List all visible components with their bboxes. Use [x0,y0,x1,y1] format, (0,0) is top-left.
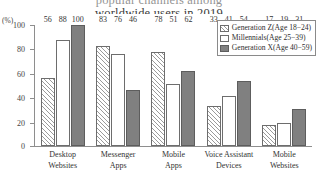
y-tick-100: 100 [30,25,34,26]
hatched-swatch-icon [220,25,229,32]
y-tick-label-20: 20 [17,123,25,124]
bar [71,25,85,146]
x-axis-category-label: Voice AssistantDevices [203,150,255,188]
bar-value-label: 62 [184,16,192,24]
legend-item-generation-z: Generation Z(Age 18−24) [220,23,312,33]
bar-wrapper: 51 [166,25,180,146]
bar-group: 5688100 [41,25,85,146]
y-tick-label-0: 0 [21,146,25,147]
bar-value-label: 76 [114,16,122,24]
bar-value-label: 46 [129,16,137,24]
bar-group: 837646 [96,25,140,146]
y-tick-label-60: 60 [17,74,25,75]
bar-wrapper: 100 [71,25,85,146]
bar-wrapper: 46 [126,25,140,146]
bar-wrapper: 78 [151,25,165,146]
y-tick-0: 0 [30,146,34,147]
bar-wrapper: 76 [111,25,125,146]
x-axis-category-label: MessengerApps [92,150,144,188]
legend-label-millennials: Millennials(Age 25−39) [232,34,306,42]
gray-swatch-icon [220,45,229,52]
legend-item-millennials: Millennials(Age 25−39) [220,33,312,43]
bar [292,109,306,147]
y-tick-60: 60 [30,74,34,75]
white-swatch-icon [220,35,229,42]
bar [222,96,236,146]
bar [277,123,291,146]
bar-wrapper: 83 [96,25,110,146]
legend-item-generation-x: Generation X(Age 40−59) [220,43,312,53]
bar-value-label: 100 [72,16,84,24]
y-tick-20: 20 [30,123,34,124]
bar [237,81,251,146]
bar-value-label: 78 [154,16,162,24]
bar [126,90,140,146]
bar-value-label: 51 [169,16,177,24]
chart-legend: Generation Z(Age 18−24) Millennials(Age … [217,20,316,56]
bar-value-label: 56 [44,16,52,24]
x-axis-category-label: DesktopWebsites [37,150,89,188]
y-tick-label-40: 40 [17,98,25,99]
bar-wrapper: 56 [41,25,55,146]
y-tick-80: 80 [30,49,34,50]
bar [96,46,110,146]
chart-title: popular channels among worldwide users i… [0,0,318,14]
bar [41,78,55,146]
x-axis-category-label: MobileWebsites [258,150,310,188]
bar-wrapper: 62 [181,25,195,146]
bar [111,54,125,146]
chart-title-line: worldwide users in 2019 [0,7,318,14]
y-tick-label-100: 100 [13,25,25,26]
bar-wrapper: 88 [56,25,70,146]
bar-group: 785162 [151,25,195,146]
x-axis-category-label: MobileApps [147,150,199,188]
y-tick-label-80: 80 [17,49,25,50]
bar-value-label: 88 [59,16,67,24]
x-axis-line [34,146,312,147]
bar [207,106,221,146]
bar [151,52,165,146]
bar-value-label: 83 [99,16,107,24]
y-axis-unit-label: (%) [2,16,13,25]
bar [56,40,70,146]
bar-chart: popular channels among worldwide users i… [0,0,318,190]
y-tick-40: 40 [30,98,34,99]
bar [262,125,276,146]
legend-label-generation-z: Generation Z(Age 18−24) [232,24,311,32]
x-axis-category-labels: DesktopWebsitesMessengerAppsMobileAppsVo… [35,150,312,188]
bar [181,71,195,146]
bar [166,84,180,146]
legend-label-generation-x: Generation X(Age 40−59) [232,44,312,52]
chart-title-cropped-line: popular channels among [0,0,318,7]
